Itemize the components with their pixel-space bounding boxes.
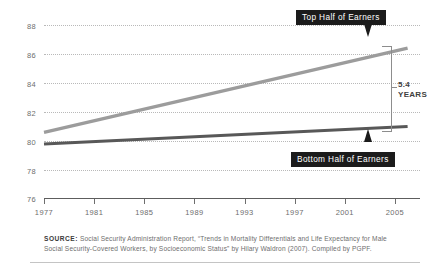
gap-bracket-label: 5.4 YEARS: [398, 80, 427, 100]
x-tick-label-1977: 1977: [35, 208, 53, 217]
bottom-half-callout: Bottom Half of Earners: [291, 152, 395, 167]
x-tick-label-1981: 1981: [85, 208, 103, 217]
bottom-half-callout-label: Bottom Half of Earners: [297, 154, 389, 164]
source-note: SOURCE: Social Security Administration R…: [44, 234, 404, 255]
x-tick-label-1997: 1997: [286, 208, 304, 217]
x-tick-1981: [94, 199, 95, 204]
top-half-callout-tail-icon: [364, 24, 372, 37]
x-tick-1993: [245, 199, 246, 204]
x-tick-1977: [44, 199, 45, 204]
gap-bracket-dash-icon: [391, 87, 397, 88]
gap-bracket-value: 5.4: [398, 80, 427, 90]
x-tick-1989: [194, 199, 195, 204]
x-tick-label-1985: 1985: [135, 208, 153, 217]
x-tick-1985: [144, 199, 145, 204]
y-tick-label-80: 80: [27, 138, 36, 147]
top-half-callout: Top Half of Earners: [296, 10, 386, 25]
y-tick-label-84: 84: [27, 80, 36, 89]
x-tick-2005: [395, 199, 396, 204]
gap-bracket-unit: YEARS: [398, 90, 427, 100]
life-expectancy-line-chart: 88 86 84 82 80 78: [0, 0, 432, 232]
series-layer: [44, 25, 420, 199]
top-half-callout-label: Top Half of Earners: [302, 12, 380, 22]
x-axis: [44, 198, 420, 199]
series-line-bottom-half: [44, 127, 408, 144]
y-tick-label-82: 82: [27, 109, 36, 118]
gap-bracket-icon: [382, 46, 392, 132]
plot-area: 88 86 84 82 80 78: [44, 25, 420, 199]
x-tick-1997: [295, 199, 296, 204]
x-tick-label-2001: 2001: [336, 208, 354, 217]
source-label: SOURCE:: [44, 235, 78, 242]
y-tick-label-88: 88: [27, 22, 36, 31]
y-tick-label-76: 76: [27, 195, 36, 204]
x-tick-label-2005: 2005: [386, 208, 404, 217]
footer-divider: [30, 262, 420, 263]
series-line-top-half: [44, 48, 408, 132]
y-tick-label-78: 78: [27, 167, 36, 176]
y-tick-label-86: 86: [27, 51, 36, 60]
x-tick-label-1989: 1989: [185, 208, 203, 217]
bottom-half-callout-tail-icon: [364, 129, 372, 142]
x-tick-2001: [345, 199, 346, 204]
source-text: Social Security Administration Report, “…: [44, 235, 387, 252]
x-tick-label-1993: 1993: [235, 208, 253, 217]
